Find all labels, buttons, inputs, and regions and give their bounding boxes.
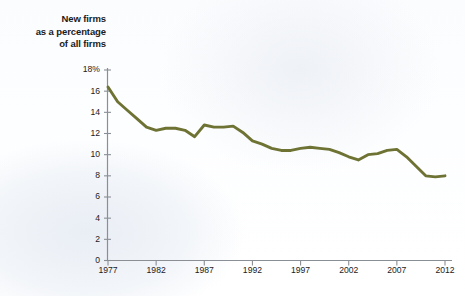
chart-plot-area [0,0,465,296]
x-axis-tick-label: 1992 [230,266,274,275]
x-axis-tick-label: 1977 [86,266,130,275]
x-axis-tick-label: 1987 [182,266,226,275]
y-axis-tick-label: 2 [56,235,100,244]
y-axis-tick-label: 6 [56,192,100,201]
y-axis-tick-label: 14 [56,108,100,117]
y-axis-tick-label: 10 [56,150,100,159]
x-axis-tick-label: 2002 [327,266,371,275]
axis-lines [107,68,452,261]
x-axis-tick-label: 2007 [375,266,419,275]
y-axis-tick-label: 8 [56,171,100,180]
y-axis-tick-label: 12 [56,129,100,138]
x-axis-tick-label: 2012 [423,266,465,275]
x-axis-tick-label: 1982 [134,266,178,275]
x-axis-tick-label: 1997 [279,266,323,275]
chart-figure: New firms as a percentage of all firms 0… [0,0,465,296]
y-axis-tick-label: 0 [56,256,100,265]
y-axis-tick-label: 4 [56,214,100,223]
data-series-line [108,87,445,177]
y-axis-tick-label: 18% [56,65,100,74]
y-axis-tick-label: 16 [56,87,100,96]
